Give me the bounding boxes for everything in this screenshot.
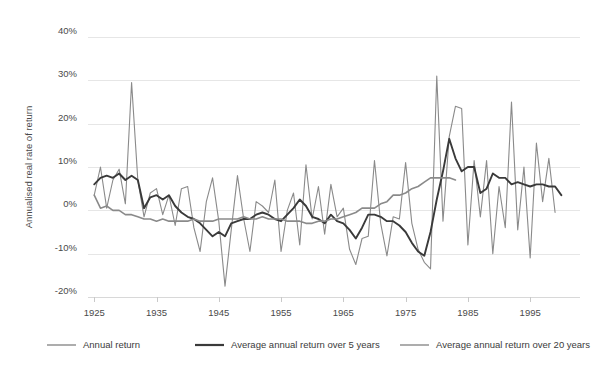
legend-label-0: Annual return xyxy=(83,339,140,350)
y-tick-label-10: 10% xyxy=(58,155,78,166)
x-tick-label-1935: 1935 xyxy=(146,307,167,318)
x-tick-label-1985: 1985 xyxy=(457,307,478,318)
y-tick-label-0: 0% xyxy=(63,198,77,209)
legend-label-2: Average annual return over 20 years xyxy=(436,339,590,350)
legend-label-1: Average annual return over 5 years xyxy=(231,339,380,350)
y-axis-title: Annualised real rate of return xyxy=(23,106,34,229)
x-tick-label-1955: 1955 xyxy=(270,307,291,318)
x-tick-label-1995: 1995 xyxy=(520,307,541,318)
y-tick-label-40: 40% xyxy=(58,25,78,36)
chart-figure: -20%-10%0%10%20%30%40% 19251935194519551… xyxy=(0,0,601,376)
legend-item-1[interactable]: Average annual return over 5 years xyxy=(195,339,380,350)
line-chart: -20%-10%0%10%20%30%40% 19251935194519551… xyxy=(0,0,601,376)
legend-item-2[interactable]: Average annual return over 20 years xyxy=(400,339,590,350)
y-tick-label-20: 20% xyxy=(58,112,78,123)
x-axis-tick-labels: 19251935194519551965197519851995 xyxy=(84,307,541,318)
x-tick-label-1975: 1975 xyxy=(395,307,416,318)
y-tick-label--20: -20% xyxy=(55,285,78,296)
y-tick-label--10: -10% xyxy=(55,242,78,253)
chart-legend[interactable]: Annual returnAverage annual return over … xyxy=(47,339,590,350)
y-tick-label-30: 30% xyxy=(58,68,78,79)
legend-item-0[interactable]: Annual return xyxy=(47,339,140,350)
x-tick-label-1925: 1925 xyxy=(84,307,105,318)
y-axis-tick-labels: -20%-10%0%10%20%30%40% xyxy=(55,25,78,296)
x-tick-label-1945: 1945 xyxy=(208,307,229,318)
gridlines xyxy=(88,38,580,298)
y-axis-title-text: Annualised real rate of return xyxy=(23,106,34,229)
x-tick-label-1965: 1965 xyxy=(333,307,354,318)
